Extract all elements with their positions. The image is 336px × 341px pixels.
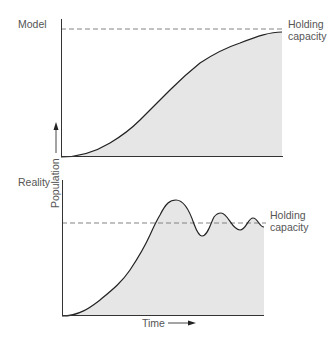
population-growth-diagram: Model Holding capacity Population Realit…	[0, 0, 336, 341]
model-panel: Model Holding capacity	[18, 18, 327, 157]
model-area-fill	[61, 32, 282, 157]
reality-panel: Reality Holding capacity	[18, 176, 309, 316]
population-axis-label-group: Population	[49, 122, 61, 208]
time-axis-label-group: Time	[142, 317, 196, 329]
model-label: Model	[18, 18, 47, 30]
reality-capacity-label-1: Holding	[270, 209, 306, 221]
model-capacity-label-2: capacity	[288, 30, 327, 42]
time-label: Time	[142, 317, 165, 329]
reality-label: Reality	[18, 176, 51, 188]
up-arrow-icon	[54, 122, 59, 130]
reality-capacity-label-2: capacity	[270, 221, 309, 233]
model-capacity-label-1: Holding	[288, 18, 324, 30]
reality-area-fill	[62, 200, 264, 316]
right-arrow-icon	[188, 321, 196, 326]
population-label: Population	[49, 158, 61, 208]
